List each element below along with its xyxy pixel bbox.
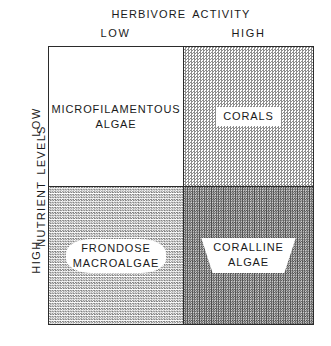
quadrant-high-nutrient-high-herbivore: CORALLINE ALGAE: [184, 187, 313, 324]
x-axis-tick-low: LOW: [48, 27, 183, 39]
x-axis-title-word-2: ACTIVITY: [192, 8, 250, 20]
quadrant-high-nutrient-low-herbivore: FRONDOSE MACROALGAE: [49, 187, 184, 324]
quadrant-label-frondose-macroalgae: FRONDOSE MACROALGAE: [66, 239, 167, 273]
x-axis-title: HERBIVOREACTIVITY: [48, 8, 314, 20]
y-axis-tick-high: HIGH: [30, 217, 42, 297]
quadrant-label-coralline-algae: CORALLINE ALGAE: [201, 238, 295, 273]
y-axis-tick-low: LOW: [30, 82, 42, 162]
quadrant-label-corals: CORALS: [216, 107, 281, 126]
x-axis-tick-high: HIGH: [183, 27, 314, 39]
quadrant-low-nutrient-low-herbivore: MICROFILAMENTOUS ALGAE: [49, 47, 184, 187]
x-axis-title-word-1: HERBIVORE: [111, 8, 186, 20]
quadrant-matrix: MICROFILAMENTOUS ALGAE CORALS FRONDOSE M…: [48, 46, 314, 325]
quadrant-low-nutrient-high-herbivore: CORALS: [184, 47, 313, 187]
quadrant-label-microfilamentous-algae: MICROFILAMENTOUS ALGAE: [44, 100, 187, 134]
